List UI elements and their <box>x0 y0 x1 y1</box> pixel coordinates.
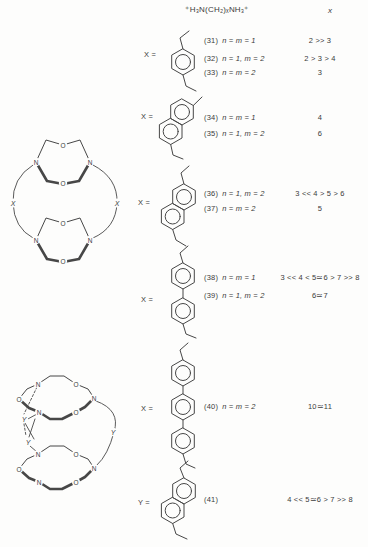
atom-label-O: O <box>60 258 65 265</box>
compound-condition: n = m = 2 <box>222 402 256 411</box>
compound-number: (38) <box>204 273 218 282</box>
macrocycle-ring <box>38 446 76 454</box>
figure-canvas: O N N O O N N O X X <box>0 0 368 547</box>
compound-number: (35) <box>204 129 218 138</box>
aromatic-circle <box>176 366 191 381</box>
compound-condition: n = m = 1 <box>222 113 256 122</box>
substituent-naphthalene-y <box>161 461 195 539</box>
aromatic-circle <box>176 304 191 319</box>
aromatic-circle <box>177 190 192 205</box>
alkyl-chain-top <box>181 166 189 184</box>
macrocycle-ring-front <box>39 482 76 489</box>
atom-label-O: O <box>16 466 21 473</box>
substituent-p-xylylene <box>172 31 196 91</box>
compound-number: (33) <box>204 68 218 77</box>
selectivity-value: 3 <box>272 68 368 78</box>
macrocycle-ring <box>38 376 76 384</box>
compound-row: (32)n = 1, m = 2 <box>204 54 265 64</box>
compound-number: (34) <box>204 113 218 122</box>
compound-condition: n = m = 1 <box>222 273 256 282</box>
alkyl-chain-top <box>193 97 202 106</box>
x-equals-label: X = <box>138 198 150 208</box>
aromatic-circle <box>165 503 180 518</box>
selectivity-value: 6≃7 <box>272 291 368 301</box>
alkyl-chain-bottom <box>183 454 195 468</box>
aromatic-circle <box>165 209 180 224</box>
x-equals-label: X = <box>144 50 156 60</box>
compound-row: (36)n = 1, m = 2 <box>204 189 265 199</box>
atom-label-N: N <box>34 237 39 244</box>
atom-label-N: N <box>37 479 42 486</box>
selectivity-value: 2 >> 3 <box>272 36 368 46</box>
compound-number: (36) <box>204 189 218 198</box>
compound-row: (34)n = m = 1 <box>204 113 256 123</box>
alkyl-chain-bottom <box>173 230 186 247</box>
linker-label-X: X <box>10 200 16 207</box>
y-equals-label: Y = <box>138 498 150 508</box>
atom-label-O: O <box>73 409 78 416</box>
selectivity-column-header: x <box>322 6 338 16</box>
selectivity-value: 3 << 4 > 5 > 6 <box>272 189 368 199</box>
atom-label-N: N <box>92 465 97 472</box>
aromatic-circle <box>176 400 191 415</box>
atom-label-O: O <box>73 479 78 486</box>
host-cylindrical-bis-crown: O N N O O N N O X X <box>9 140 122 265</box>
compound-condition: n = m = 2 <box>222 204 256 213</box>
alkyl-chain-top <box>180 246 188 263</box>
compound-row: (35)n = 1, m = 2 <box>204 129 265 139</box>
aromatic-circle <box>175 105 190 120</box>
compound-condition: n = 1, m = 2 <box>222 54 264 63</box>
atom-label-N: N <box>88 237 93 244</box>
x-equals-label: X = <box>141 112 153 122</box>
atom-label-N: N <box>36 381 41 388</box>
x-equals-label: X = <box>141 404 153 414</box>
linker-line <box>29 419 35 437</box>
atom-label-N: N <box>36 451 41 458</box>
atom-label-O: O <box>73 381 78 388</box>
aromatic-circle <box>176 55 191 70</box>
compound-condition: n = m = 2 <box>222 68 256 77</box>
selectivity-value: 4 << 5≃6 > 7 >> 8 <box>272 495 368 505</box>
x-equals-label: X = <box>141 295 153 305</box>
compound-number: (40) <box>204 402 218 411</box>
atom-label-N: N <box>88 159 93 166</box>
substituent-terphenyl <box>172 343 195 468</box>
selectivity-value: 3 << 4 < 5≃6 > 7 >> 8 <box>272 273 368 283</box>
atom-label-O: O <box>60 180 65 187</box>
compound-number: (37) <box>204 204 218 213</box>
compound-condition: n = 1, m = 2 <box>222 291 264 300</box>
atom-label-O: O <box>60 220 65 227</box>
aromatic-circle <box>163 124 178 139</box>
atom-label-O: O <box>16 396 21 403</box>
atom-label-O: O <box>73 451 78 458</box>
compound-condition: n = 1, m = 2 <box>222 129 264 138</box>
compound-row: (37)n = m = 2 <box>204 204 256 214</box>
guest-formula: ⁺H₃N(CH₂)ₓNH₃⁺ <box>160 5 274 15</box>
linker-label-X: X <box>114 200 120 207</box>
substituent-biphenyl <box>172 246 196 338</box>
substituent-naphthalene-b <box>161 166 195 246</box>
compound-number: (41) <box>204 495 218 504</box>
macrocycle-ring-front <box>39 412 76 419</box>
compound-row: (33)n = m = 2 <box>204 68 256 78</box>
compound-number: (39) <box>204 291 218 300</box>
atom-label-O: O <box>60 142 65 149</box>
aromatic-circle <box>177 484 192 499</box>
alkyl-chain-top <box>180 343 188 360</box>
atom-label-N: N <box>37 409 42 416</box>
selectivity-value: 10≃11 <box>272 402 368 412</box>
compound-number: (31) <box>204 36 218 45</box>
alkyl-chain-top <box>180 461 188 478</box>
alkyl-chain-bottom <box>183 324 196 338</box>
host-cylindrical-cage: N O O N N O N O O N N O Y Y Y <box>15 376 117 489</box>
alkyl-chain-bottom <box>173 524 187 540</box>
selectivity-value: 4 <box>272 113 368 123</box>
compound-row: (39)n = 1, m = 2 <box>204 291 265 301</box>
atom-label-N: N <box>92 395 97 402</box>
substituent-naphthalene-a <box>159 97 202 159</box>
alkyl-chain-top <box>180 31 189 49</box>
compound-number: (32) <box>204 54 218 63</box>
selectivity-value: 6 <box>272 129 368 139</box>
compound-row: (38)n = m = 1 <box>204 273 256 283</box>
alkyl-chain-bottom <box>183 75 196 91</box>
